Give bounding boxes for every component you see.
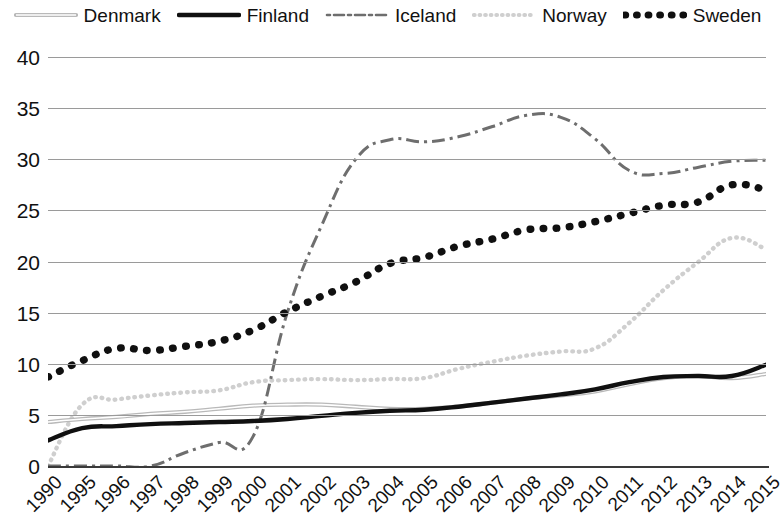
legend-label-iceland: Iceland <box>395 6 456 25</box>
x-tick-label-2001: 2001 <box>261 472 304 515</box>
series-norway <box>48 238 766 466</box>
plot-area <box>48 57 766 466</box>
gridline-20 <box>48 262 766 263</box>
line-swatch-finland <box>177 8 241 22</box>
y-axis-labels: 4035302520151050 <box>0 57 40 466</box>
x-tick-label-2004: 2004 <box>364 472 407 515</box>
x-tick-label-1997: 1997 <box>125 472 168 515</box>
x-tick-label-1998: 1998 <box>159 472 202 515</box>
x-tick-label-2007: 2007 <box>467 472 510 515</box>
gridline-25 <box>48 210 766 211</box>
series-sweden <box>48 184 766 377</box>
y-tick-label-35: 35 <box>17 98 40 119</box>
y-tick-label-10: 10 <box>17 353 40 374</box>
y-tick-label-5: 5 <box>28 404 40 425</box>
line-swatch-iceland <box>325 8 389 22</box>
y-tick-label-25: 25 <box>17 200 40 221</box>
legend-item-sweden[interactable]: Sweden <box>623 6 762 25</box>
gridline-15 <box>48 313 766 314</box>
x-tick-label-2013: 2013 <box>672 472 715 515</box>
legend-item-iceland[interactable]: Iceland <box>325 6 456 25</box>
legend-label-norway: Norway <box>542 6 606 25</box>
x-tick-label-2011: 2011 <box>604 472 646 514</box>
x-tick-label-2006: 2006 <box>432 472 475 515</box>
gridline-5 <box>48 415 766 416</box>
x-tick-label-2014: 2014 <box>706 472 749 515</box>
x-tick-label-2000: 2000 <box>227 472 270 515</box>
legend-item-norway[interactable]: Norway <box>472 6 606 25</box>
gridline-40 <box>48 57 766 58</box>
chart-legend: DenmarkFinlandIcelandNorwaySweden <box>0 0 775 30</box>
y-tick-label-40: 40 <box>17 47 40 68</box>
y-tick-label-20: 20 <box>17 251 40 272</box>
x-tick-label-1996: 1996 <box>90 472 133 515</box>
x-tick-label-2015: 2015 <box>740 472 783 515</box>
y-tick-label-0: 0 <box>28 456 40 477</box>
legend-label-finland: Finland <box>247 6 309 25</box>
series-finland <box>48 365 766 441</box>
x-tick-label-2003: 2003 <box>330 472 373 515</box>
legend-label-sweden: Sweden <box>693 6 762 25</box>
x-tick-label-2010: 2010 <box>569 472 612 515</box>
legend-item-denmark[interactable]: Denmark <box>14 6 161 25</box>
x-tick-label-2008: 2008 <box>501 472 544 515</box>
x-tick-label-1995: 1995 <box>56 472 99 515</box>
x-tick-label-1990: 1990 <box>22 472 65 515</box>
x-tick-label-1999: 1999 <box>193 472 236 515</box>
x-tick-label-2009: 2009 <box>535 472 578 515</box>
x-tick-label-2005: 2005 <box>398 472 441 515</box>
legend-item-finland[interactable]: Finland <box>177 6 309 25</box>
gridline-10 <box>48 364 766 365</box>
legend-label-denmark: Denmark <box>84 6 161 25</box>
y-tick-label-30: 30 <box>17 149 40 170</box>
line-swatch-norway <box>472 8 536 22</box>
line-swatch-denmark <box>14 8 78 22</box>
y-tick-label-15: 15 <box>17 302 40 323</box>
x-tick-label-2012: 2012 <box>638 472 681 515</box>
gridline-30 <box>48 159 766 160</box>
line-swatch-sweden <box>623 8 687 22</box>
x-axis-labels: 1990199519961997199819992000200120022003… <box>48 468 766 523</box>
gridline-35 <box>48 108 766 109</box>
x-tick-label-2002: 2002 <box>296 472 339 515</box>
